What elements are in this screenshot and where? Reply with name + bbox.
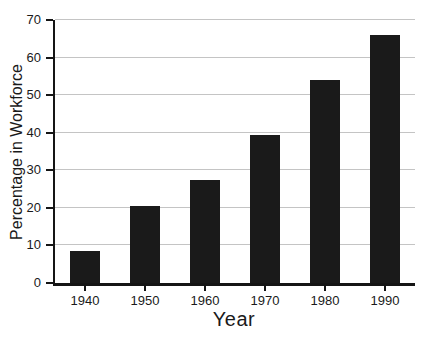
gridline-20 — [55, 207, 415, 208]
x-tick-label-1990: 1990 — [355, 293, 415, 308]
y-tick-mark-0 — [46, 282, 53, 284]
bar-chart-figure: Percentage in Workforce Year 01020304050… — [0, 0, 429, 341]
y-tick-label-0: 0 — [9, 275, 41, 291]
bar-1950 — [130, 206, 160, 283]
gridline-40 — [55, 132, 415, 133]
plot-area — [53, 20, 415, 286]
x-tick-mark-1990 — [384, 286, 386, 291]
bar-1980 — [310, 80, 340, 283]
x-tick-mark-1970 — [264, 286, 266, 291]
y-tick-label-70: 70 — [9, 12, 41, 28]
x-tick-label-1980: 1980 — [295, 293, 355, 308]
bar-1970 — [250, 135, 280, 283]
y-tick-mark-10 — [46, 244, 53, 246]
gridline-50 — [55, 94, 415, 95]
y-tick-mark-50 — [46, 94, 53, 96]
y-tick-label-60: 60 — [9, 50, 41, 66]
gridline-60 — [55, 57, 415, 58]
y-tick-label-30: 30 — [9, 162, 41, 178]
x-tick-mark-1960 — [204, 286, 206, 291]
y-tick-mark-70 — [46, 19, 53, 21]
bar-1990 — [370, 35, 400, 283]
y-tick-mark-30 — [46, 169, 53, 171]
x-tick-mark-1940 — [84, 286, 86, 291]
y-tick-mark-60 — [46, 57, 53, 59]
x-tick-label-1950: 1950 — [115, 293, 175, 308]
x-tick-mark-1950 — [144, 286, 146, 291]
y-tick-label-20: 20 — [9, 200, 41, 216]
x-tick-label-1960: 1960 — [175, 293, 235, 308]
gridline-10 — [55, 244, 415, 245]
gridline-70 — [55, 19, 415, 20]
x-axis-title: Year — [53, 308, 415, 331]
x-tick-mark-1980 — [324, 286, 326, 291]
bar-1960 — [190, 180, 220, 283]
y-tick-mark-40 — [46, 132, 53, 134]
y-tick-label-50: 50 — [9, 87, 41, 103]
x-tick-label-1940: 1940 — [55, 293, 115, 308]
y-tick-mark-20 — [46, 207, 53, 209]
x-tick-label-1970: 1970 — [235, 293, 295, 308]
y-tick-label-40: 40 — [9, 125, 41, 141]
bar-1940 — [70, 251, 100, 283]
gridline-30 — [55, 169, 415, 170]
y-tick-label-10: 10 — [9, 237, 41, 253]
